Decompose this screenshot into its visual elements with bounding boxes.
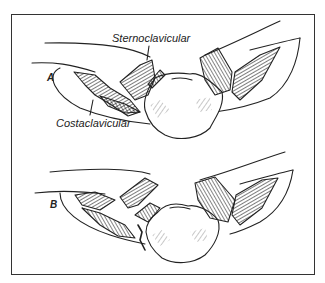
label-costaclavicular: Costaclavicular xyxy=(56,118,131,129)
panel-b-drawing xyxy=(35,152,293,263)
label-sternoclavicular: Sternoclavicular xyxy=(112,33,190,44)
panel-label-b: B xyxy=(50,200,57,210)
panel-label-a: A xyxy=(47,73,54,83)
